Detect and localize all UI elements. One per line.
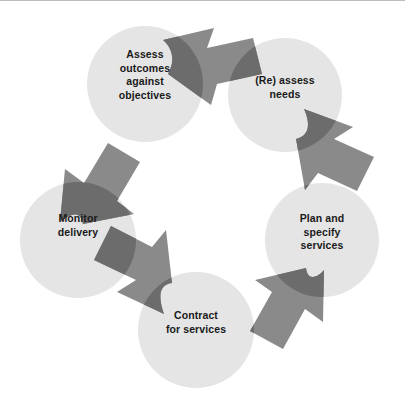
cycle-diagram-canvas	[0, 0, 405, 407]
cycle-diagram-figure: Assess outcomes against objectives (Re) …	[0, 0, 405, 407]
